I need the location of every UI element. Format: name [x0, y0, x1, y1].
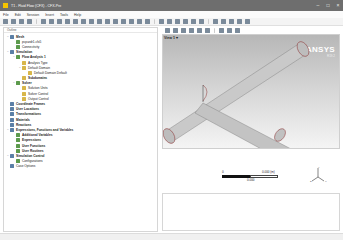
fit-view-icon[interactable]: [205, 28, 210, 33]
menu-bar: File Edit Session Insert Tools Help: [0, 11, 343, 18]
insert-output-control-icon[interactable]: [121, 19, 126, 24]
insert-coordinate-frame-icon[interactable]: [183, 19, 188, 24]
tree-item-label: Connectivity: [22, 45, 39, 49]
tree-item-label: Reactions: [16, 123, 31, 127]
insert-source-point-icon[interactable]: [89, 19, 94, 24]
solver-control-icon: [22, 92, 26, 96]
undo-icon[interactable]: [41, 19, 46, 24]
connectivity-icon: [16, 45, 20, 49]
tree-item-label: Output Control: [28, 97, 49, 101]
pan-icon[interactable]: [181, 28, 186, 33]
menu-insert[interactable]: Insert: [45, 13, 54, 17]
insert-reaction-icon[interactable]: [145, 19, 150, 24]
menu-edit[interactable]: Edit: [15, 13, 21, 17]
zoom-box-icon[interactable]: [197, 28, 202, 33]
solution-units-icon: [22, 86, 26, 90]
tree-item-label: Solver Control: [28, 92, 48, 96]
svg-text:Y: Y: [318, 166, 320, 169]
insert-material-icon[interactable]: [137, 19, 142, 24]
scale-bar-black: [222, 175, 250, 178]
tree-item-label: Case Options: [16, 164, 35, 168]
title-bar: T1 - Fluid Flow (CFX) - CFX-Pre – □ ×: [0, 0, 343, 11]
menu-file[interactable]: File: [3, 13, 9, 17]
menu-session[interactable]: Session: [27, 13, 39, 17]
tree-item-label: Transformations: [16, 112, 41, 116]
save-case-icon[interactable]: [19, 19, 24, 24]
insert-user-function-icon[interactable]: [167, 19, 172, 24]
outline-tree: −Meshpcpardr1.cfx5Connectivity−Simulatio…: [4, 33, 157, 169]
tree-item-label: Configurations: [22, 159, 43, 163]
insert-user-location-icon[interactable]: [199, 19, 204, 24]
validate-icon[interactable]: [237, 19, 242, 24]
toolbar-separator: [154, 19, 155, 24]
solver-icon: [16, 81, 20, 85]
import-mesh-icon[interactable]: [27, 19, 32, 24]
message-panel: [162, 193, 340, 231]
svg-text:X: X: [325, 180, 327, 183]
insert-additional-variable-icon[interactable]: [175, 19, 180, 24]
insert-interface-icon[interactable]: [97, 19, 102, 24]
zoom-icon[interactable]: [189, 28, 194, 33]
pipe-geometry: [163, 35, 340, 149]
scale-mid-label: 0.000: [247, 178, 255, 182]
tree-item-label: Simulation Control: [16, 154, 45, 158]
window-controls: – □ ×: [315, 2, 341, 8]
menu-tools[interactable]: Tools: [60, 13, 68, 17]
boundary-icon: [28, 71, 32, 75]
axis-triad-icon: Y X Z: [308, 166, 328, 186]
main-toolbar: [0, 18, 343, 26]
insert-domain-icon[interactable]: [65, 19, 70, 24]
minimize-icon[interactable]: –: [315, 2, 321, 8]
mesh-adaption-icon[interactable]: [213, 19, 218, 24]
expressions-icon: [10, 128, 14, 132]
insert-boundary-icon[interactable]: [73, 19, 78, 24]
simulation-icon: [10, 50, 14, 54]
tree-item[interactable]: Case Options: [4, 164, 157, 169]
scale-max-label: 0.000 (m): [262, 170, 275, 174]
select-icon[interactable]: [165, 28, 170, 33]
tree-item-label: Simulation: [16, 50, 32, 54]
insert-subdomain-icon[interactable]: [81, 19, 86, 24]
app-icon: [3, 3, 8, 8]
toggle-3d-icon[interactable]: [227, 28, 232, 33]
open-case-icon[interactable]: [11, 19, 16, 24]
refresh-icon[interactable]: [57, 19, 62, 24]
tree-item-label: Expressions: [22, 138, 41, 142]
pick-mode-icon[interactable]: [235, 28, 240, 33]
user-functions-icon: [16, 144, 20, 148]
insert-initialization-icon[interactable]: [105, 19, 110, 24]
case-options-icon: [10, 164, 14, 168]
close-icon[interactable]: ×: [335, 2, 341, 8]
tree-item-label: Mesh: [16, 35, 24, 39]
tree-item-label: Default Domain Default: [34, 71, 67, 75]
rotate-icon[interactable]: [173, 28, 178, 33]
menu-help[interactable]: Help: [74, 13, 81, 17]
3d-viewport[interactable]: View 1 ▾ ANSYS R19.2: [162, 34, 340, 149]
insert-expression-icon[interactable]: [159, 19, 164, 24]
analysis-type-icon: [22, 61, 26, 65]
redo-icon[interactable]: [49, 19, 54, 24]
outline-tree-panel: Outline −Meshpcpardr1.cfx5Connectivity−S…: [3, 27, 158, 232]
tree-item-label: Solution Units: [28, 86, 48, 90]
domain-icon: [22, 66, 26, 70]
toolbar-separator: [214, 28, 215, 33]
transformations-icon: [10, 112, 14, 116]
branch-end-cap: [270, 125, 290, 145]
viewport-layout-icon[interactable]: [219, 28, 224, 33]
tree-item-label: Coordinate Frames: [16, 102, 45, 106]
insert-monitor-icon[interactable]: [129, 19, 134, 24]
help-icon[interactable]: [245, 19, 250, 24]
reactions-icon: [10, 123, 14, 127]
insert-transformation-icon[interactable]: [191, 19, 196, 24]
tree-item-label: Materials: [16, 118, 30, 122]
insert-solver-control-icon[interactable]: [113, 19, 118, 24]
mesh-file-icon: [16, 40, 20, 44]
write-solver-file-icon[interactable]: [221, 19, 226, 24]
output-control-icon: [22, 97, 26, 101]
mesh-icon: [10, 35, 14, 39]
tree-item-label: Flow Analysis 1: [22, 55, 46, 59]
define-run-icon[interactable]: [229, 19, 234, 24]
maximize-icon[interactable]: □: [325, 2, 331, 8]
new-case-icon[interactable]: [3, 19, 8, 24]
tree-item-label: User Locations: [16, 107, 39, 111]
